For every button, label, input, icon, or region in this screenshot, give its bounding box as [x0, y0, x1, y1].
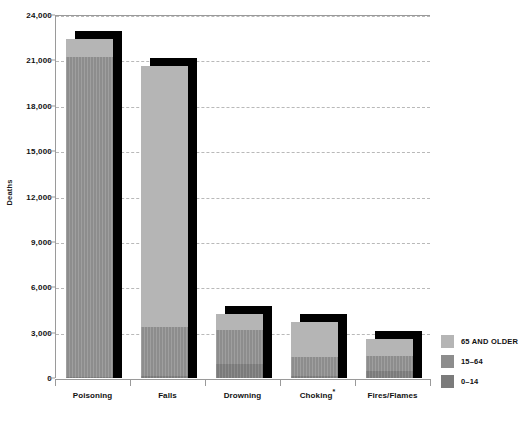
stacked-bar-chart: Deaths 03,0006,0009,00012,00015,00018,00… [0, 0, 530, 423]
bar-segment[interactable] [291, 376, 338, 378]
bar-segment[interactable] [66, 39, 113, 57]
y-tick-label-0: 0 [6, 374, 52, 383]
plot-inner [56, 16, 430, 378]
bar-segment[interactable] [141, 327, 188, 376]
legend-item[interactable]: 65 AND OLDER [441, 331, 518, 351]
legend-label: 0–14 [461, 377, 479, 386]
bar-segment[interactable] [66, 57, 113, 377]
y-tick-label-6000: 6,000 [6, 283, 52, 292]
legend-label: 15–64 [461, 357, 483, 366]
bar-stack[interactable] [216, 314, 263, 378]
bar-group[interactable] [66, 15, 122, 378]
legend-item[interactable]: 15–64 [441, 351, 518, 371]
x-tick-mark [430, 379, 431, 386]
bar-segment[interactable] [291, 357, 338, 376]
bar-group[interactable] [291, 15, 347, 378]
legend-item[interactable]: 0–14 [441, 371, 518, 391]
x-axis-label-falls: Falls [158, 391, 177, 400]
bar-segment[interactable] [366, 339, 413, 356]
bar-segment[interactable] [366, 356, 413, 371]
bar-segment[interactable] [141, 376, 188, 378]
bar-stack[interactable] [291, 322, 338, 378]
legend: 65 AND OLDER15–640–14 [441, 331, 518, 391]
bar-stack[interactable] [66, 39, 113, 378]
legend-swatch [441, 355, 454, 368]
bar-group[interactable] [366, 15, 422, 378]
legend-swatch [441, 335, 454, 348]
y-tick-label-9000: 9,000 [6, 237, 52, 246]
y-tick-label-21000: 21,000 [6, 56, 52, 65]
bar-stack[interactable] [366, 339, 413, 378]
bar-segment[interactable] [66, 377, 113, 378]
gridline-0 [56, 379, 430, 380]
y-tick-label-18000: 18,000 [6, 101, 52, 110]
bar-stack[interactable] [141, 66, 188, 378]
x-axis-label-poisoning: Poisoning [73, 391, 113, 400]
x-tick-mark [130, 379, 131, 386]
bar-segment[interactable] [216, 314, 263, 330]
legend-swatch [441, 375, 454, 388]
bar-segment[interactable] [366, 371, 413, 378]
bar-group[interactable] [141, 15, 197, 378]
y-tick-label-15000: 15,000 [6, 147, 52, 156]
x-axis-label-choking: Choking* [300, 391, 336, 400]
x-axis-label-drowning: Drowning [224, 391, 262, 400]
y-tick-label-24000: 24,000 [6, 11, 52, 20]
x-tick-mark [205, 379, 206, 386]
x-axis-label-firesflames: Fires/Flames [367, 391, 417, 400]
x-tick-mark [355, 379, 356, 386]
x-tick-mark [280, 379, 281, 386]
bar-segment[interactable] [216, 364, 263, 378]
bar-segment[interactable] [141, 66, 188, 326]
y-tick-label-3000: 3,000 [6, 328, 52, 337]
plot-area [55, 15, 430, 378]
bar-segment[interactable] [291, 322, 338, 357]
bar-segment[interactable] [216, 330, 263, 364]
x-tick-mark [55, 379, 56, 386]
y-tick-label-12000: 12,000 [6, 192, 52, 201]
legend-label: 65 AND OLDER [461, 337, 518, 346]
bar-group[interactable] [216, 15, 272, 378]
